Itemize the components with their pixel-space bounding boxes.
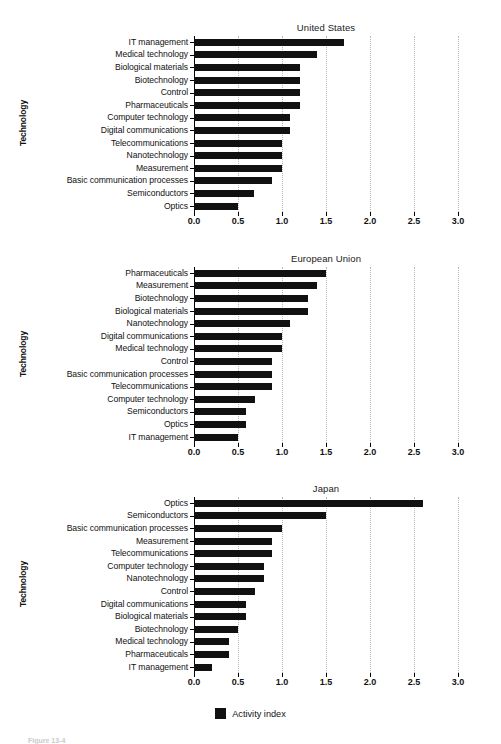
bar bbox=[194, 638, 229, 645]
table-row: Computer technology bbox=[194, 560, 458, 573]
table-row: Nanotechnology bbox=[194, 149, 458, 162]
bar bbox=[194, 282, 317, 289]
category-label: Biological materials bbox=[115, 63, 188, 72]
bar bbox=[194, 358, 272, 365]
bar bbox=[194, 664, 212, 671]
table-row: Semiconductors bbox=[194, 510, 458, 523]
bar bbox=[194, 102, 300, 109]
y-axis-label-text-0: Technology bbox=[18, 100, 28, 146]
table-row: Biotechnology bbox=[194, 292, 458, 305]
category-label: Digital communications bbox=[101, 332, 188, 341]
category-label: Digital communications bbox=[101, 126, 188, 135]
bar bbox=[194, 39, 344, 46]
x-tick-label: 1.0 bbox=[276, 216, 289, 226]
category-label: Digital communications bbox=[101, 600, 188, 609]
table-row: Biological materials bbox=[194, 610, 458, 623]
bar-rows-0: IT managementMedical technologyBiologica… bbox=[194, 36, 458, 212]
x-tick-label: 1.0 bbox=[276, 677, 289, 687]
x-tick-label: 2.0 bbox=[364, 447, 377, 457]
legend-inner: Activity index bbox=[215, 708, 286, 719]
table-row: IT management bbox=[194, 661, 458, 674]
x-tick-label: 2.5 bbox=[408, 216, 421, 226]
category-label: Medical technology bbox=[115, 637, 188, 646]
category-label: Medical technology bbox=[115, 344, 188, 353]
bar bbox=[194, 152, 282, 159]
table-row: Medical technology bbox=[194, 636, 458, 649]
category-label: Pharmaceuticals bbox=[125, 269, 188, 278]
x-axis-0: 0.00.51.01.52.02.53.0 bbox=[194, 212, 458, 230]
table-row: Biological materials bbox=[194, 305, 458, 318]
category-label: Pharmaceuticals bbox=[125, 101, 188, 110]
bar bbox=[194, 613, 246, 620]
category-label: Control bbox=[161, 357, 188, 366]
table-row: Measurement bbox=[194, 162, 458, 175]
table-row: Optics bbox=[194, 497, 458, 510]
table-row: Telecommunications bbox=[194, 137, 458, 150]
x-tick-label: 0.0 bbox=[188, 447, 201, 457]
bar bbox=[194, 203, 238, 210]
x-tick-label: 3.0 bbox=[452, 677, 465, 687]
category-label: Biotechnology bbox=[135, 76, 188, 85]
x-tick-label: 3.0 bbox=[452, 216, 465, 226]
table-row: Medical technology bbox=[194, 343, 458, 356]
category-label: Basic communication processes bbox=[67, 370, 188, 379]
category-label: Telecommunications bbox=[111, 382, 188, 391]
bar-rows-1: PharmaceuticalsMeasurementBiotechnologyB… bbox=[194, 267, 458, 443]
x-axis-1: 0.00.51.01.52.02.53.0 bbox=[194, 443, 458, 461]
table-row: Biotechnology bbox=[194, 623, 458, 636]
bar bbox=[194, 563, 264, 570]
category-label: Nanotechnology bbox=[127, 574, 188, 583]
category-label: Control bbox=[161, 88, 188, 97]
bar bbox=[194, 525, 282, 532]
table-row: Basic communication processes bbox=[194, 522, 458, 535]
bar bbox=[194, 651, 229, 658]
bar bbox=[194, 396, 255, 403]
plot-area-1: PharmaceuticalsMeasurementBiotechnologyB… bbox=[194, 267, 458, 443]
bar bbox=[194, 89, 300, 96]
panel-title-0: United States bbox=[194, 22, 458, 33]
activity-index-figure: United StatesTechnologyIT managementMedi… bbox=[0, 0, 501, 744]
table-row: Control bbox=[194, 86, 458, 99]
category-label: Pharmaceuticals bbox=[125, 650, 188, 659]
x-tick-label: 2.0 bbox=[364, 216, 377, 226]
category-label: Measurement bbox=[136, 537, 188, 546]
bar bbox=[194, 140, 282, 147]
legend-label: Activity index bbox=[232, 709, 286, 719]
category-label: Telecommunications bbox=[111, 139, 188, 148]
category-label: Optics bbox=[164, 499, 188, 508]
table-row: Telecommunications bbox=[194, 547, 458, 560]
x-tick-label: 1.5 bbox=[320, 216, 333, 226]
gridline-3 bbox=[458, 36, 459, 212]
table-row: Nanotechnology bbox=[194, 317, 458, 330]
x-tick-label: 1.5 bbox=[320, 447, 333, 457]
x-tick-label: 2.5 bbox=[408, 677, 421, 687]
category-label: IT management bbox=[129, 663, 188, 672]
category-label: Control bbox=[161, 587, 188, 596]
x-tick-label: 0.5 bbox=[232, 216, 245, 226]
panel-title-2: Japan bbox=[194, 483, 458, 494]
bar bbox=[194, 270, 326, 277]
table-row: Computer technology bbox=[194, 112, 458, 125]
bar bbox=[194, 512, 326, 519]
plot-area-0: IT managementMedical technologyBiologica… bbox=[194, 36, 458, 212]
legend-swatch-activity-index bbox=[215, 708, 226, 719]
panel-title-1: European Union bbox=[194, 253, 458, 264]
table-row: Medical technology bbox=[194, 49, 458, 62]
table-row: Digital communications bbox=[194, 598, 458, 611]
plot-area-2: OpticsSemiconductorsBasic communication … bbox=[194, 497, 458, 673]
x-axis-2: 0.00.51.01.52.02.53.0 bbox=[194, 673, 458, 691]
table-row: Nanotechnology bbox=[194, 573, 458, 586]
table-row: Pharmaceuticals bbox=[194, 99, 458, 112]
bar bbox=[194, 575, 264, 582]
category-label: Measurement bbox=[136, 281, 188, 290]
bar bbox=[194, 588, 255, 595]
category-label: IT management bbox=[129, 38, 188, 47]
category-label: Nanotechnology bbox=[127, 151, 188, 160]
category-label: Semiconductors bbox=[127, 407, 188, 416]
category-label: Biotechnology bbox=[135, 625, 188, 634]
y-axis-label-2: Technology bbox=[0, 579, 46, 589]
bar bbox=[194, 626, 238, 633]
table-row: Basic communication processes bbox=[194, 368, 458, 381]
category-label: Optics bbox=[164, 202, 188, 211]
bar bbox=[194, 371, 272, 378]
